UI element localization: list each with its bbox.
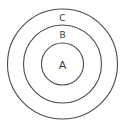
label-c: C <box>59 13 65 23</box>
concentric-circle-diagram: C B A <box>0 0 125 126</box>
label-a: A <box>59 59 67 72</box>
label-b: B <box>59 30 65 40</box>
